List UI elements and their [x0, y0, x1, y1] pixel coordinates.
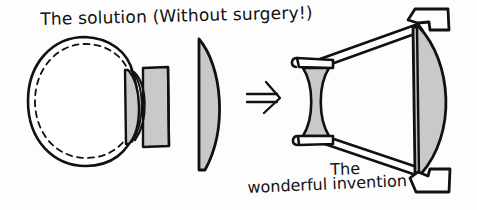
eyeball-outline [28, 37, 138, 166]
holder-right-edge [168, 67, 169, 146]
lens-holder-rect [143, 67, 169, 147]
drawing-canvas: The solution (Without surgery!) The wond… [0, 0, 477, 210]
concave-lens-cap-bottom [298, 136, 333, 145]
concave-lens-cap-top [297, 58, 333, 68]
bracket-bottom-right [410, 169, 450, 192]
holder-body [143, 67, 169, 147]
